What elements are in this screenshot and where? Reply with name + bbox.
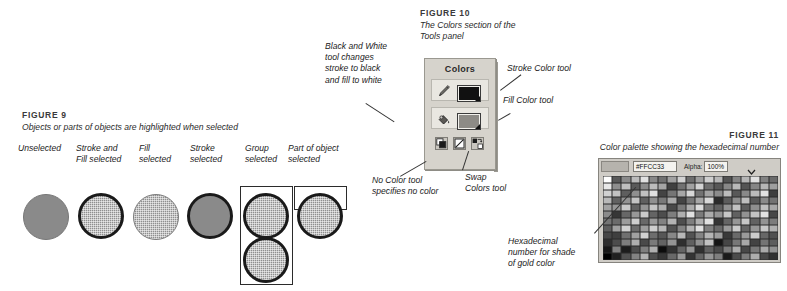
palette-swatch[interactable] xyxy=(686,197,695,204)
palette-swatch[interactable] xyxy=(714,197,723,204)
palette-swatch[interactable] xyxy=(695,176,704,183)
palette-swatch[interactable] xyxy=(649,225,658,232)
palette-swatch[interactable] xyxy=(695,225,704,232)
fill-color-dropdown-caret[interactable] xyxy=(475,124,480,129)
palette-swatch[interactable] xyxy=(658,211,667,218)
palette-swatch[interactable] xyxy=(741,225,750,232)
palette-swatch[interactable] xyxy=(658,232,667,239)
palette-swatch[interactable] xyxy=(704,232,713,239)
palette-swatch[interactable] xyxy=(640,183,649,190)
palette-swatch[interactable] xyxy=(750,253,759,260)
palette-swatch[interactable] xyxy=(649,246,658,253)
palette-swatch[interactable] xyxy=(732,239,741,246)
palette-swatch[interactable] xyxy=(603,197,612,204)
palette-swatch[interactable] xyxy=(677,176,686,183)
palette-swatch[interactable] xyxy=(695,183,704,190)
palette-swatch[interactable] xyxy=(667,239,676,246)
palette-swatch[interactable] xyxy=(723,239,732,246)
palette-swatch[interactable] xyxy=(621,239,630,246)
palette-swatch[interactable] xyxy=(612,183,621,190)
palette-swatch[interactable] xyxy=(750,176,759,183)
palette-swatch[interactable] xyxy=(750,239,759,246)
palette-swatch[interactable] xyxy=(723,246,732,253)
palette-swatch[interactable] xyxy=(667,211,676,218)
palette-swatch[interactable] xyxy=(686,190,695,197)
palette-swatch[interactable] xyxy=(741,246,750,253)
palette-swatch[interactable] xyxy=(769,197,778,204)
palette-swatch[interactable] xyxy=(714,211,723,218)
palette-swatch[interactable] xyxy=(603,190,612,197)
palette-swatch[interactable] xyxy=(760,218,769,225)
palette-swatch[interactable] xyxy=(704,204,713,211)
palette-swatch[interactable] xyxy=(723,204,732,211)
palette-swatch[interactable] xyxy=(695,218,704,225)
stroke-color-dropdown-caret[interactable] xyxy=(475,96,480,101)
palette-swatch[interactable] xyxy=(769,176,778,183)
palette-swatch[interactable] xyxy=(750,246,759,253)
palette-swatch[interactable] xyxy=(760,211,769,218)
palette-swatch[interactable] xyxy=(667,183,676,190)
palette-swatch[interactable] xyxy=(732,197,741,204)
palette-swatch[interactable] xyxy=(760,239,769,246)
palette-swatch[interactable] xyxy=(658,225,667,232)
palette-swatch[interactable] xyxy=(704,211,713,218)
palette-swatch[interactable] xyxy=(723,190,732,197)
palette-swatch[interactable] xyxy=(677,232,686,239)
palette-swatch[interactable] xyxy=(649,239,658,246)
palette-swatch[interactable] xyxy=(649,253,658,260)
palette-swatch[interactable] xyxy=(732,190,741,197)
palette-swatch[interactable] xyxy=(741,218,750,225)
palette-swatch[interactable] xyxy=(658,239,667,246)
palette-swatch[interactable] xyxy=(732,211,741,218)
palette-swatch[interactable] xyxy=(750,183,759,190)
palette-swatch[interactable] xyxy=(603,225,612,232)
palette-swatch[interactable] xyxy=(621,225,630,232)
palette-swatch[interactable] xyxy=(640,190,649,197)
palette-swatch[interactable] xyxy=(704,253,713,260)
palette-swatch[interactable] xyxy=(732,218,741,225)
palette-swatch[interactable] xyxy=(741,183,750,190)
palette-swatch[interactable] xyxy=(603,176,612,183)
palette-swatch[interactable] xyxy=(741,232,750,239)
palette-swatch[interactable] xyxy=(686,232,695,239)
palette-swatch[interactable] xyxy=(723,183,732,190)
palette-swatch[interactable] xyxy=(603,239,612,246)
palette-swatch[interactable] xyxy=(695,253,704,260)
palette-swatch[interactable] xyxy=(704,190,713,197)
palette-swatch[interactable] xyxy=(714,253,723,260)
palette-swatch[interactable] xyxy=(677,204,686,211)
palette-swatch[interactable] xyxy=(704,246,713,253)
palette-swatch[interactable] xyxy=(714,239,723,246)
palette-swatch[interactable] xyxy=(704,239,713,246)
fill-color-row[interactable] xyxy=(431,107,489,129)
palette-swatch[interactable] xyxy=(704,183,713,190)
palette-swatch[interactable] xyxy=(732,246,741,253)
palette-swatch[interactable] xyxy=(631,218,640,225)
palette-swatch[interactable] xyxy=(658,218,667,225)
palette-swatch[interactable] xyxy=(658,190,667,197)
palette-swatch[interactable] xyxy=(621,211,630,218)
palette-swatch[interactable] xyxy=(741,204,750,211)
palette-swatch[interactable] xyxy=(704,218,713,225)
palette-swatch-grid[interactable] xyxy=(603,176,778,260)
palette-swatch[interactable] xyxy=(667,218,676,225)
palette-swatch[interactable] xyxy=(677,246,686,253)
palette-swatch[interactable] xyxy=(667,253,676,260)
palette-swatch[interactable] xyxy=(621,176,630,183)
palette-swatch[interactable] xyxy=(612,232,621,239)
palette-swatch[interactable] xyxy=(704,225,713,232)
palette-swatch[interactable] xyxy=(714,183,723,190)
palette-swatch[interactable] xyxy=(741,239,750,246)
palette-swatch[interactable] xyxy=(677,183,686,190)
palette-swatch[interactable] xyxy=(640,253,649,260)
palette-swatch[interactable] xyxy=(769,225,778,232)
palette-swatch[interactable] xyxy=(603,204,612,211)
palette-swatch[interactable] xyxy=(686,183,695,190)
palette-swatch[interactable] xyxy=(760,204,769,211)
palette-swatch[interactable] xyxy=(631,253,640,260)
palette-swatch[interactable] xyxy=(667,197,676,204)
palette-swatch[interactable] xyxy=(677,253,686,260)
palette-swatch[interactable] xyxy=(769,190,778,197)
palette-swatch[interactable] xyxy=(612,225,621,232)
palette-swatch[interactable] xyxy=(769,218,778,225)
